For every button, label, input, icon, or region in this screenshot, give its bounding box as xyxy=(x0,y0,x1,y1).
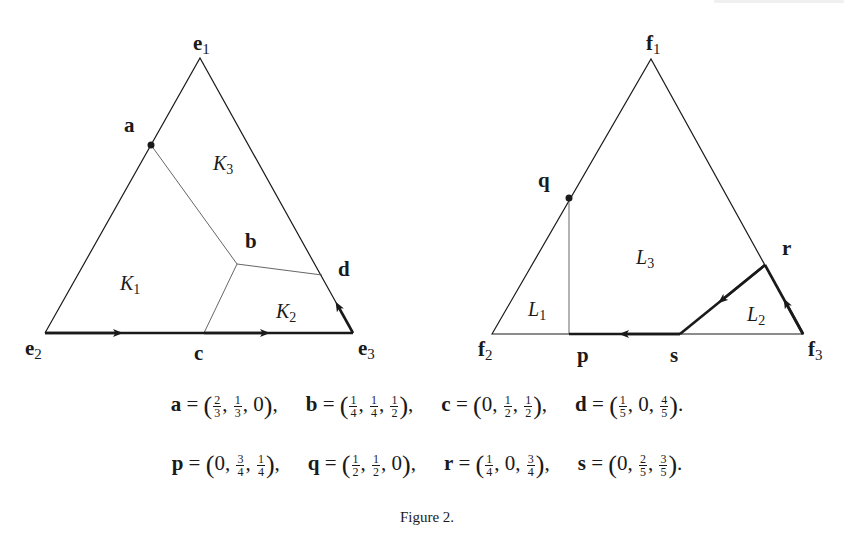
point-q-label: q xyxy=(538,168,550,192)
point-b-label: b xyxy=(245,229,257,253)
region-K1-label: K1 xyxy=(119,272,140,297)
vertex-e2-label: e2 xyxy=(25,336,42,362)
equation-q: q = (12, 12, 0), xyxy=(308,450,416,480)
point-a-label: a xyxy=(124,113,135,137)
point-q-dot xyxy=(566,195,573,202)
edge-b-d xyxy=(237,264,322,275)
arrow-r-s xyxy=(722,265,765,300)
point-s-label: s xyxy=(670,343,678,367)
equation-p: p = (0, 34, 14), xyxy=(172,450,280,480)
left-triangle: e1 e2 e3 a b c d K1 K2 K3 xyxy=(25,31,375,365)
right-triangle: f1 f2 f3 q p s r L1 L2 L3 xyxy=(478,31,823,367)
edge-b-c xyxy=(204,264,237,333)
arrow-f3-r xyxy=(786,303,803,334)
region-K2-label: K2 xyxy=(275,300,296,325)
point-p-label: p xyxy=(577,343,589,367)
point-a-dot xyxy=(148,142,155,149)
vertex-f3-label: f3 xyxy=(808,337,823,363)
vertex-e1-label: e1 xyxy=(193,31,210,57)
equation-b: b = (14, 14, 12), xyxy=(306,391,414,421)
vertex-f2-label: f2 xyxy=(478,337,493,363)
vertex-e3-label: e3 xyxy=(358,336,375,362)
equation-s: s = (0, 25, 35). xyxy=(578,450,683,480)
figure-caption: Figure 2. xyxy=(0,509,854,526)
equation-r: r = (14, 0, 34), xyxy=(444,450,550,480)
region-L3-label: L3 xyxy=(635,246,654,271)
region-L1-label: L1 xyxy=(527,298,546,323)
right-triangle-sides xyxy=(492,59,803,334)
point-r-label: r xyxy=(782,236,791,260)
region-K3-label: K3 xyxy=(212,152,233,177)
region-L2-label: L2 xyxy=(746,303,765,328)
equation-d: d = (15, 0, 45). xyxy=(575,391,683,421)
equations-row-2: p = (0, 34, 14),q = (12, 12, 0),r = (14,… xyxy=(0,450,854,480)
figure-diagrams: e1 e2 e3 a b c d K1 K2 K3 f1 f2 f3 q p s… xyxy=(0,0,854,380)
point-d-label: d xyxy=(338,257,350,281)
arrow-e3-d xyxy=(338,306,353,333)
left-triangle-sides xyxy=(45,58,353,333)
equations-row-1: a = (23, 13, 0),b = (14, 14, 12),c = (0,… xyxy=(0,391,854,421)
vertex-f1-label: f1 xyxy=(646,31,661,57)
equation-c: c = (0, 12, 12), xyxy=(441,391,547,421)
equation-a: a = (23, 13, 0), xyxy=(171,391,278,421)
point-c-label: c xyxy=(194,341,203,365)
